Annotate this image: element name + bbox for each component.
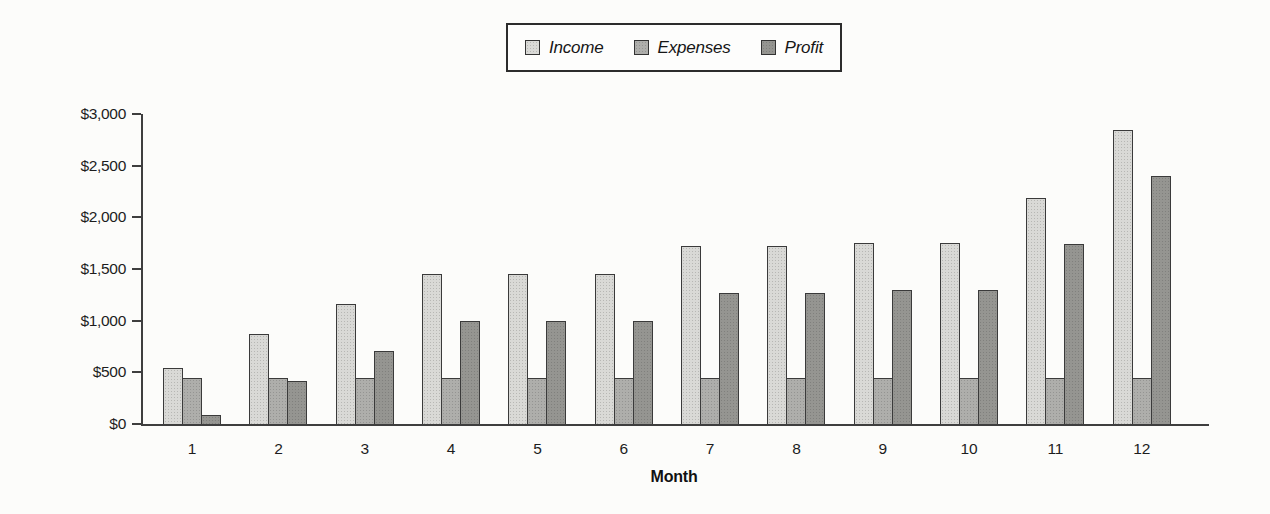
y-axis-tick-label: $0 [46, 415, 126, 433]
bar-group-month-5 [508, 114, 570, 424]
legend-label-expenses: Expenses [658, 38, 731, 58]
y-axis-tick-label: $1,000 [46, 312, 126, 330]
x-axis-label-month-8: 8 [765, 440, 827, 458]
bar-profit-month-7 [719, 293, 739, 424]
y-axis-tick [132, 165, 141, 167]
x-axis-title: Month [141, 468, 1207, 486]
y-axis-tick-label: $3,000 [46, 105, 126, 123]
bar-profit-month-2 [287, 381, 307, 424]
x-axis-label-month-3: 3 [334, 440, 396, 458]
bar-profit-month-12 [1151, 176, 1171, 424]
x-axis-label-month-5: 5 [506, 440, 568, 458]
y-axis-tick-label: $1,500 [46, 260, 126, 278]
bar-group-month-8 [767, 114, 829, 424]
legend-label-profit: Profit [785, 38, 823, 58]
bar-expenses-month-9 [873, 378, 893, 425]
bar-group-month-10 [940, 114, 1002, 424]
x-axis-label-month-10: 10 [938, 440, 1000, 458]
bar-expenses-month-12 [1132, 378, 1152, 425]
bar-profit-month-4 [460, 321, 480, 424]
bar-expenses-month-6 [614, 378, 634, 425]
legend-swatch-income [525, 40, 540, 55]
legend-item-expenses: Expenses [634, 38, 731, 58]
bar-expenses-month-2 [268, 378, 288, 425]
bar-income-month-4 [422, 274, 442, 424]
bar-profit-month-3 [374, 351, 394, 424]
legend-label-income: Income [549, 38, 604, 58]
x-axis-label-month-7: 7 [679, 440, 741, 458]
bar-income-month-6 [595, 274, 615, 424]
bar-group-month-2 [249, 114, 311, 424]
bar-expenses-month-5 [527, 378, 547, 425]
y-axis-tick [132, 113, 141, 115]
bar-expenses-month-11 [1045, 378, 1065, 425]
bar-income-month-7 [681, 246, 701, 424]
chart-legend: IncomeExpensesProfit [506, 23, 842, 72]
x-axis-label-month-12: 12 [1111, 440, 1173, 458]
bar-profit-month-1 [201, 415, 221, 424]
bar-income-month-9 [854, 243, 874, 424]
y-axis-tick [132, 216, 141, 218]
bar-group-month-3 [336, 114, 398, 424]
bar-expenses-month-10 [959, 378, 979, 425]
bar-group-month-6 [595, 114, 657, 424]
bar-income-month-5 [508, 274, 528, 424]
bar-expenses-month-3 [355, 378, 375, 425]
x-axis-label-month-1: 1 [161, 440, 223, 458]
x-axis-label-month-6: 6 [593, 440, 655, 458]
plot-area: $0$500$1,000$1,500$2,000$2,500$3,000 [141, 114, 1209, 426]
legend-item-profit: Profit [761, 38, 823, 58]
bar-expenses-month-1 [182, 378, 202, 425]
bar-group-month-12 [1113, 114, 1175, 424]
bar-income-month-1 [163, 368, 183, 424]
bar-income-month-2 [249, 334, 269, 424]
legend-swatch-profit [761, 40, 776, 55]
bar-income-month-8 [767, 246, 787, 424]
y-axis-tick [132, 268, 141, 270]
bar-group-month-9 [854, 114, 916, 424]
y-axis-tick-label: $2,500 [46, 157, 126, 175]
y-axis-tick-label: $500 [46, 363, 126, 381]
bar-group-month-7 [681, 114, 743, 424]
bar-income-month-10 [940, 243, 960, 424]
y-axis-tick-label: $2,000 [46, 208, 126, 226]
y-axis-tick [132, 371, 141, 373]
x-axis-label-month-2: 2 [247, 440, 309, 458]
x-axis-labels: 123456789101112 [141, 440, 1207, 458]
bar-income-month-3 [336, 304, 356, 424]
x-axis-label-month-9: 9 [852, 440, 914, 458]
legend-swatch-expenses [634, 40, 649, 55]
bar-profit-month-8 [805, 293, 825, 424]
bar-expenses-month-7 [700, 378, 720, 425]
bar-profit-month-9 [892, 290, 912, 424]
x-axis-label-month-11: 11 [1024, 440, 1086, 458]
bar-profit-month-10 [978, 290, 998, 424]
chart-figure: IncomeExpensesProfit $0$500$1,000$1,500$… [0, 0, 1270, 514]
bar-group-month-1 [163, 114, 225, 424]
x-axis-label-month-4: 4 [420, 440, 482, 458]
bar-group-month-11 [1026, 114, 1088, 424]
bar-profit-month-6 [633, 321, 653, 424]
bar-expenses-month-4 [441, 378, 461, 425]
bar-income-month-12 [1113, 130, 1133, 425]
bar-groups [143, 114, 1209, 424]
y-axis-tick [132, 320, 141, 322]
bar-profit-month-5 [546, 321, 566, 424]
y-axis-tick [132, 423, 141, 425]
bar-profit-month-11 [1064, 244, 1084, 424]
bar-expenses-month-8 [786, 378, 806, 425]
legend-item-income: Income [525, 38, 604, 58]
bar-income-month-11 [1026, 198, 1046, 424]
bar-group-month-4 [422, 114, 484, 424]
